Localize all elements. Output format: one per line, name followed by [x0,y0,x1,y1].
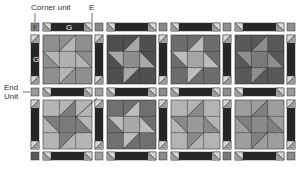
quilt-block [235,100,284,149]
corner-square [223,23,231,31]
corner-square [95,88,103,96]
block-center [187,51,203,67]
block-center [251,116,267,132]
block-center [59,116,75,132]
corner-square [159,88,167,96]
corner-square [95,23,103,31]
corner-unit-label: Corner unit [31,3,71,12]
quilt-block [43,100,92,149]
g-side-label: G [33,55,39,64]
g-top-label: G [66,23,72,32]
end-unit-label-line2: Unit [4,92,18,101]
block-center [251,51,267,67]
corner-square [31,88,39,96]
e-label: E [89,3,94,12]
corner-square [287,23,295,31]
corner-square [159,152,167,160]
end-unit-label-line1: End [4,83,18,92]
quilt-block [107,35,156,84]
corner-square [159,23,167,31]
block-center [123,51,139,67]
quilt-block [171,100,220,149]
corner-square [223,152,231,160]
corner-square [287,88,295,96]
corner-square [287,152,295,160]
block-center [123,116,139,132]
quilt-block [171,35,220,84]
corner-square [31,152,39,160]
corner-square [95,152,103,160]
quilt-block [43,35,92,84]
block-center [59,51,75,67]
corner-square [223,88,231,96]
quilt-block [107,100,156,149]
f-label: F [33,23,37,32]
quilt-layout-diagram [0,0,304,172]
block-center [187,116,203,132]
quilt-block [235,35,284,84]
